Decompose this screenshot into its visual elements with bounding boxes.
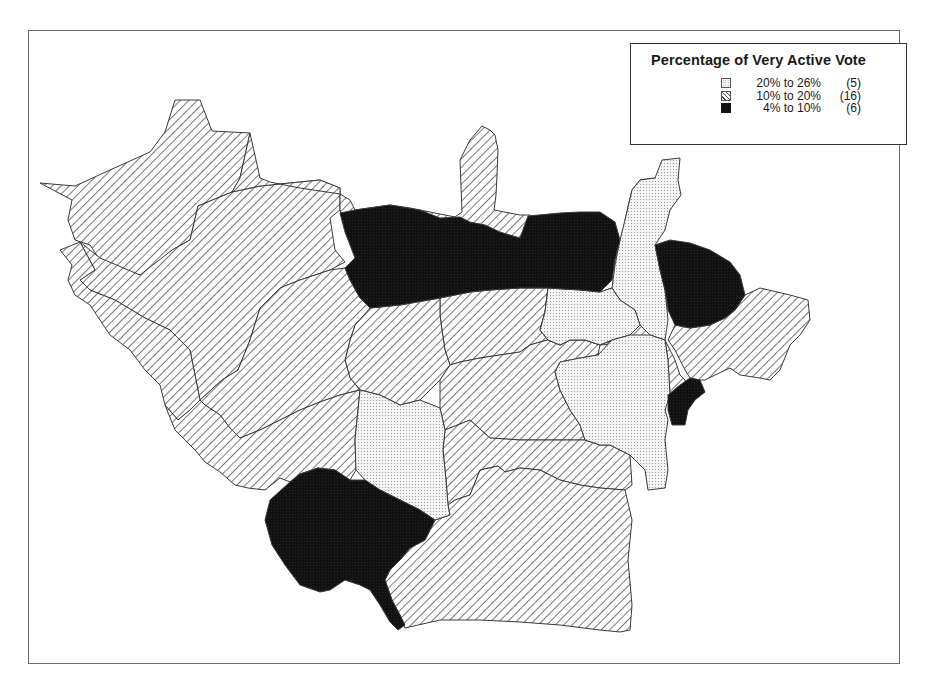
legend-range: 4% to 10% (741, 101, 821, 115)
legend-item-mid: 10% to 20% (16) (721, 90, 861, 103)
legend-title: Percentage of Very Active Vote (651, 52, 866, 68)
legend-count: (6) (821, 101, 861, 115)
legend-item-high: 20% to 26% (5) (721, 77, 861, 90)
legend-item-low: 4% to 10% (6) (721, 102, 861, 115)
dotted-pattern-swatch-icon (721, 78, 731, 88)
hatched-pattern-swatch-icon (721, 91, 731, 101)
dark-pattern-swatch-icon (721, 103, 731, 113)
map-regions (40, 100, 810, 632)
legend: Percentage of Very Active Vote 20% to 26… (630, 43, 907, 145)
legend-items: 20% to 26% (5) 10% to 20% (16) 4% to 10%… (721, 77, 861, 115)
map-page: Percentage of Very Active Vote 20% to 26… (0, 0, 925, 682)
